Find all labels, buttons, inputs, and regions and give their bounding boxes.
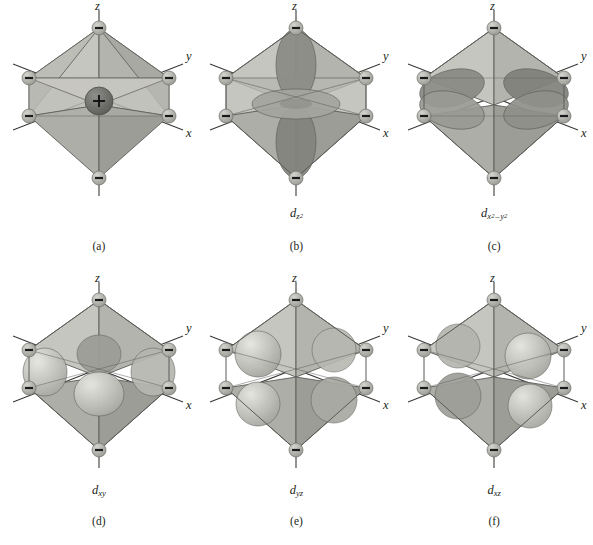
axis-label-z: z: [489, 0, 495, 13]
panel-f: z y x dxz (f): [395, 272, 593, 545]
axis-label-y: y: [381, 49, 389, 63]
axis-label-z: z: [291, 272, 297, 285]
orbital-figure-grid: z y x (a): [0, 0, 593, 545]
panel-caption-b: (b): [290, 240, 303, 252]
panel-c: z y x dx2 – y2 (c): [395, 0, 593, 272]
panel-f-diagram: z y x: [396, 272, 592, 482]
axis-label-y: y: [184, 49, 192, 63]
axis-label-y: y: [184, 321, 192, 335]
orbital-label-dxz: dxz: [487, 483, 500, 498]
axis-label-x: x: [382, 398, 389, 412]
panel-caption-e: (e): [290, 515, 303, 527]
axis-label-y: y: [381, 321, 389, 335]
panel-e: z y x dyz (e): [198, 272, 396, 545]
octahedron-body: [226, 300, 366, 450]
axis-label-x: x: [185, 398, 192, 412]
axis-label-z: z: [94, 0, 100, 13]
axis-label-y: y: [579, 49, 587, 63]
panel-e-diagram: z y x: [198, 272, 394, 482]
panel-a: z y x (a): [0, 0, 198, 272]
orbital-label-dx2y2: dx2 – y2: [481, 206, 507, 221]
panel-d: z y x dxy (d): [0, 272, 198, 545]
axis-label-z: z: [94, 272, 100, 285]
panel-b-diagram: z y x: [198, 0, 394, 205]
axis-label-x: x: [580, 126, 587, 140]
axis-label-x: x: [185, 126, 192, 140]
axis-label-x: x: [382, 126, 389, 140]
panel-a-diagram: z y x: [1, 0, 197, 205]
orbital-label-dyz: dyz: [290, 483, 303, 498]
panel-c-diagram: z y x: [396, 0, 592, 205]
panel-caption-f: (f): [488, 515, 500, 527]
octahedron-body: [424, 300, 564, 450]
panel-caption-c: (c): [488, 240, 501, 252]
orbital-label-dxy: dxy: [92, 483, 106, 498]
panel-caption-a: (a): [92, 240, 105, 252]
panel-caption-d: (d): [92, 515, 105, 527]
panel-d-diagram: z y x: [1, 272, 197, 482]
panel-b: z y x dz2 (b): [198, 0, 396, 272]
orbital-label-dz2: dz2: [290, 206, 303, 221]
axis-label-y: y: [579, 321, 587, 335]
axis-label-x: x: [580, 398, 587, 412]
axis-label-z: z: [291, 0, 297, 13]
axis-label-z: z: [489, 272, 495, 285]
